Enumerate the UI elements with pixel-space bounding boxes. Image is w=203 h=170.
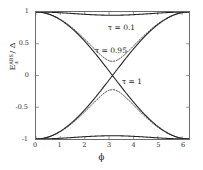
y-axis-label: EABS± / Δ xyxy=(8,21,17,93)
xtick-label-3: 3 xyxy=(103,142,115,149)
x-axis-label: ϕ xyxy=(0,152,203,162)
xtick-label-2: 2 xyxy=(78,142,90,149)
series--0-1-lower- xyxy=(36,136,189,139)
series--1-lower- xyxy=(36,76,189,140)
series--1-upper- xyxy=(36,12,189,76)
xtick-label-0: 0 xyxy=(29,142,41,149)
xtick-label-1: 1 xyxy=(54,142,66,149)
annotation-tau-0p95: τ = 0.95 xyxy=(95,47,127,55)
y-axis-label-denom: Δ xyxy=(8,42,17,48)
ytick-label-m1: -1 xyxy=(4,136,28,143)
annotation-tau-0p1: τ = 0.1 xyxy=(108,24,135,32)
figure-andreev-bound-states: 1 0.5 0 -0.5 -1 0 1 2 3 4 5 6 EABS± / Δ … xyxy=(0,0,203,170)
annotation-tau-1: τ = 1 xyxy=(122,78,142,86)
y-axis-label-base: E xyxy=(8,65,17,71)
xtick-label-5: 5 xyxy=(152,142,164,149)
series--0-1-upper- xyxy=(36,12,189,15)
xtick-label-4: 4 xyxy=(128,142,140,149)
ytick-label-m0p5: -0.5 xyxy=(4,104,28,111)
ytick-label-1: 1 xyxy=(5,8,29,15)
xtick-label-6: 6 xyxy=(177,142,189,149)
